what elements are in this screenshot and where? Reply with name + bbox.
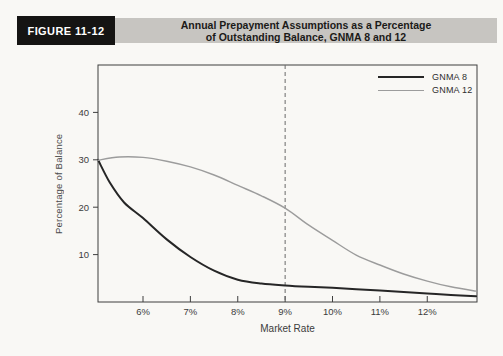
y-tick-label: 20 bbox=[78, 202, 89, 213]
series-line-gnma-8 bbox=[98, 160, 476, 296]
x-axis-title: Market Rate bbox=[98, 323, 477, 334]
y-tick-label: 40 bbox=[78, 107, 89, 118]
gnma-12-line-swatch bbox=[378, 90, 424, 91]
legend-item-gnma-8: GNMA 8 bbox=[378, 71, 472, 83]
series-line-gnma-12 bbox=[98, 157, 476, 291]
y-tick-label: 10 bbox=[78, 249, 89, 260]
y-axis-title: Percentage of Balance bbox=[51, 65, 65, 302]
x-tick-label: 12% bbox=[418, 306, 438, 317]
chart-legend: GNMA 8 GNMA 12 bbox=[378, 71, 472, 96]
x-tick-label: 10% bbox=[323, 306, 343, 317]
legend-label-gnma-8: GNMA 8 bbox=[432, 72, 467, 82]
x-tick-label: 9% bbox=[278, 306, 292, 317]
x-tick-label: 7% bbox=[184, 306, 198, 317]
prepayment-chart: 6%7%8%9%10%11%12%10203040 bbox=[0, 0, 503, 356]
x-tick-label: 6% bbox=[136, 306, 150, 317]
legend-item-gnma-12: GNMA 12 bbox=[378, 84, 472, 96]
legend-label-gnma-12: GNMA 12 bbox=[432, 85, 472, 95]
y-tick-label: 30 bbox=[78, 154, 89, 165]
x-tick-label: 11% bbox=[371, 306, 390, 317]
x-tick-label: 8% bbox=[231, 306, 245, 317]
plot-border bbox=[98, 65, 477, 302]
gnma-8-line-swatch bbox=[378, 76, 424, 78]
